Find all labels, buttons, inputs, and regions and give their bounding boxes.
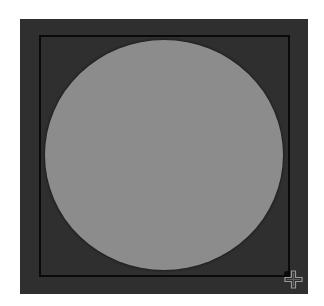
crosshair-move-icon bbox=[284, 270, 303, 289]
ellipse-shape[interactable] bbox=[45, 40, 283, 270]
drawing-canvas-area bbox=[0, 0, 324, 306]
